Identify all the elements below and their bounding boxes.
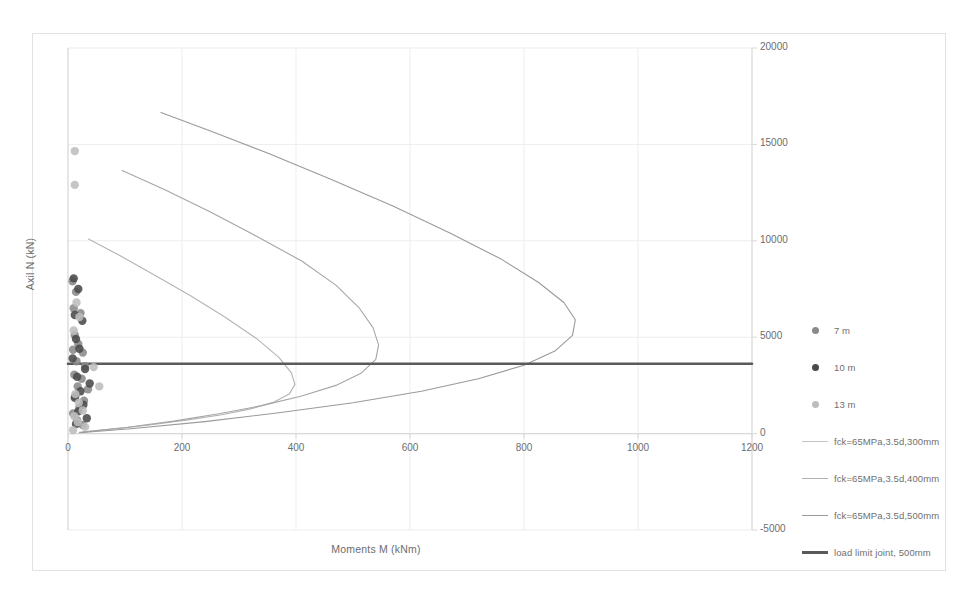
legend-item[interactable]: load limit joint, 500mm [800,534,970,571]
legend-item[interactable]: fck=65MPa,3.5d,300mm [800,423,970,460]
data-point [74,418,82,426]
data-point [95,382,103,390]
legend-item-label: 10 m [830,362,856,373]
data-point [75,313,83,321]
y-tick-label: 10000 [760,234,788,245]
x-axis-title: Moments M (kNm) [0,543,752,555]
series-points [68,147,103,434]
y-tick-label: 15000 [760,137,788,148]
chart-legend: 7 m10 m13 mfck=65MPa,3.5d,300mmfck=65MPa… [800,312,970,571]
data-point [72,298,80,306]
series-line-4 [82,170,378,432]
x-tick-label: 400 [266,442,326,453]
series-line-5 [79,113,575,433]
data-point [71,390,79,398]
legend-item-label: fck=65MPa,3.5d,400mm [830,473,939,484]
legend-item-label: fck=65MPa,3.5d,300mm [830,436,939,447]
series-line-3 [79,239,295,433]
data-point [72,335,80,343]
y-tick-label: 5000 [760,330,782,341]
data-point [73,373,81,381]
y-axis-title: Axil N (kN) [24,214,36,314]
x-tick-label: 200 [152,442,212,453]
legend-item-label: load limit joint, 500mm [830,547,931,558]
legend-item-label: fck=65MPa,3.5d,500mm [830,510,939,521]
legend-item-label: 13 m [830,399,856,410]
legend-item[interactable]: 13 m [800,386,970,423]
data-point [81,365,89,373]
data-point [83,414,91,422]
data-point [68,354,76,362]
legend-marker-dot [812,401,819,408]
legend-marker-dot [812,364,819,371]
gridlines [68,48,752,530]
data-point [69,426,77,434]
legend-marker-line [802,478,828,479]
legend-item[interactable]: 7 m [800,312,970,349]
data-point [71,181,79,189]
x-tick-label: 600 [380,442,440,453]
legend-item[interactable]: 10 m [800,349,970,386]
data-point [79,406,87,414]
data-point [70,274,78,282]
data-point [71,147,79,155]
x-tick-label: 0 [38,442,98,453]
x-tick-label: 1000 [608,442,668,453]
x-tick-label: 1200 [722,442,782,453]
legend-marker-dot [812,327,819,334]
legend-item[interactable]: fck=65MPa,3.5d,500mm [800,497,970,534]
y-tick-label: 20000 [760,41,788,52]
data-point [70,326,78,334]
legend-marker-line [802,551,828,553]
data-point [81,423,89,431]
axis-lines [68,48,757,530]
data-point [90,363,98,371]
chart-container: Moments M (kNm) Axil N (kN) 200001500010… [0,0,978,606]
legend-item[interactable]: fck=65MPa,3.5d,400mm [800,460,970,497]
data-point [86,379,94,387]
legend-marker-line [802,441,828,442]
data-point [75,345,83,353]
y-tick-label: -5000 [760,523,786,534]
data-point [74,285,82,293]
y-tick-label: 0 [760,427,766,438]
legend-marker-line [802,515,828,516]
data-point [75,399,83,407]
x-tick-label: 800 [494,442,554,453]
legend-item-label: 7 m [830,325,850,336]
